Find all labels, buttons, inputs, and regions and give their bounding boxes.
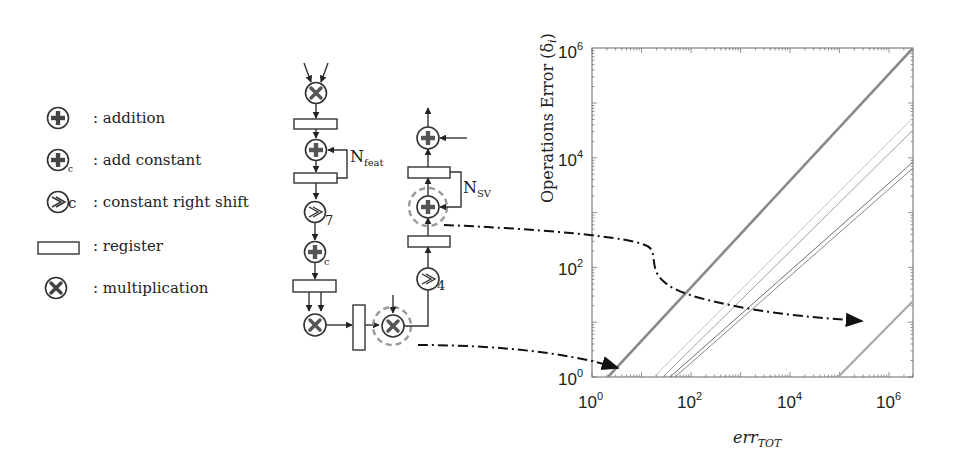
- right-shift-subscript: c: [68, 194, 76, 212]
- x-tick-2: 102: [677, 390, 702, 412]
- legend: : addition c : add constant c : constant…: [38, 108, 249, 299]
- adder-constant-datapath-icon: [305, 242, 326, 263]
- y-tick-labels: 100 102 104 106: [558, 40, 583, 389]
- y-tick-0: 100: [558, 367, 583, 389]
- legend-label-multiplication: : multiplication: [93, 279, 209, 297]
- right-shift-7-icon: [305, 202, 326, 223]
- right-shift-4-icon: [417, 268, 439, 290]
- legend-item-register: : register: [38, 237, 164, 255]
- register-vertical: [353, 305, 365, 350]
- register-4: [408, 236, 450, 247]
- x-tick-labels: 100 102 104 106: [578, 390, 901, 412]
- n-feat-label: Nfeat: [350, 147, 384, 168]
- register-icon: [38, 242, 79, 254]
- figure: : addition c : add constant c : constant…: [0, 0, 954, 455]
- y-tick-4: 104: [558, 148, 583, 170]
- datapath-diagram: [293, 63, 467, 350]
- y-tick-6: 106: [558, 40, 583, 62]
- n-sv-label: NSV: [463, 178, 492, 199]
- adder-sv-icon: [417, 196, 439, 218]
- register-3: [293, 280, 336, 292]
- adder-icon: [48, 108, 69, 129]
- arrow-multiplier-to-line: [418, 345, 618, 368]
- legend-item-multiplication: : multiplication: [46, 278, 209, 299]
- x-tick-4: 104: [777, 390, 802, 412]
- shift-7-value: 7: [325, 213, 333, 228]
- legend-item-add-constant: c : add constant: [48, 150, 202, 175]
- shift-4-value: 4: [437, 278, 445, 293]
- legend-label-right-shift: : constant right shift: [93, 193, 249, 211]
- y-tick-2: 102: [558, 257, 583, 279]
- right-shift-icon: [48, 192, 69, 213]
- legend-item-right-shift: c : constant right shift: [48, 192, 249, 213]
- y-axis-title: Operations Error (δi): [538, 33, 559, 203]
- register-2: [294, 173, 337, 183]
- multiplier-highlighted-icon: [382, 315, 404, 337]
- x-axis-title: errTOT: [733, 428, 783, 450]
- adder-constant-icon: [48, 150, 69, 171]
- add-constant-subscript: c: [68, 164, 73, 174]
- register-1: [294, 119, 337, 129]
- legend-item-addition: : addition: [48, 108, 166, 129]
- register-5: [408, 167, 450, 178]
- plot: 100 102 104 106 100 102 104 106 errTOT O…: [538, 33, 913, 450]
- multiplier-input-icon: [306, 83, 327, 104]
- multiplier-icon: [46, 278, 67, 299]
- legend-label-add-constant: : add constant: [93, 151, 201, 169]
- add-constant-sub: c: [324, 256, 330, 267]
- x-tick-0: 100: [578, 390, 603, 412]
- adder-feat-icon: [306, 140, 327, 161]
- multiplier-square-icon: [304, 314, 326, 336]
- x-tick-6: 106: [876, 390, 901, 412]
- legend-label-addition: : addition: [93, 109, 166, 127]
- legend-label-register: : register: [93, 237, 164, 255]
- plot-frame: [592, 48, 913, 377]
- adder-output-icon: [417, 127, 439, 149]
